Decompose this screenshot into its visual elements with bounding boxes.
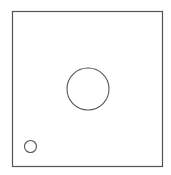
- diagram-canvas: [0, 0, 171, 175]
- small-circle: [25, 141, 37, 153]
- large-circle: [67, 68, 109, 110]
